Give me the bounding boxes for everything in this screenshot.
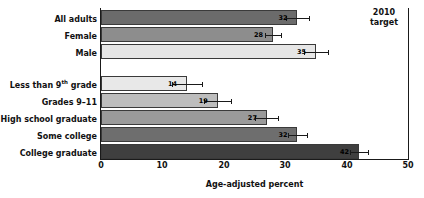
category-label-high-school-graduate: High school graduate	[0, 116, 97, 124]
category-label-less-than-9th-grade: Less than 9th grade	[10, 82, 97, 90]
category-label-text: Male	[75, 49, 97, 58]
bar-female	[101, 27, 273, 42]
plot-area: 3228351419273242	[101, 0, 408, 160]
x-tick-40: 40	[341, 162, 352, 170]
error-cap-female-low	[265, 33, 266, 38]
error-cap-male-high	[328, 50, 329, 55]
error-bar-high-school-graduate	[255, 118, 278, 119]
category-label-female: Female	[65, 33, 97, 41]
category-label-text: All adults	[54, 15, 97, 24]
category-label-text: Some college	[37, 132, 97, 141]
x-tick-30: 30	[279, 162, 290, 170]
y-axis-line	[100, 8, 101, 160]
error-bar-some-college	[288, 135, 308, 136]
error-cap-less-than-9th-grade-high	[202, 82, 203, 87]
bar-value-college-graduate: 42	[340, 149, 349, 156]
bar-value-less-than-9th-grade: 14	[168, 81, 177, 88]
bar-value-some-college: 32	[278, 132, 287, 139]
target-label: 2010 target	[364, 8, 404, 28]
y-axis-labels: All adults Female Male Less than 9th gra…	[0, 0, 97, 198]
bar-college-graduate	[101, 144, 359, 159]
x-tick-20: 20	[218, 162, 229, 170]
category-label-text: Less than 9	[10, 81, 62, 90]
category-label-text: Female	[65, 32, 97, 41]
category-label-all-adults: All adults	[54, 16, 97, 24]
error-cap-female-high	[281, 33, 282, 38]
category-label-male: Male	[75, 50, 97, 58]
error-cap-grades-9-11-high	[231, 99, 232, 104]
error-cap-high-school-graduate-high	[278, 116, 279, 121]
error-bar-male	[304, 52, 329, 53]
error-bar-female	[265, 35, 281, 36]
bar-value-grades-9-11: 19	[199, 98, 208, 105]
target-line	[408, 8, 409, 160]
x-axis-title: Age-adjusted percent	[101, 180, 408, 189]
bar-high-school-graduate	[101, 110, 267, 125]
category-label-text: Grades 9–11	[42, 98, 97, 107]
x-tick-10: 10	[156, 162, 167, 170]
bar-all-adults	[101, 10, 297, 25]
error-cap-college-graduate-high	[368, 150, 369, 155]
x-tick-50: 50	[402, 162, 413, 170]
bar-value-all-adults: 32	[278, 15, 287, 22]
bar-chart: All adults Female Male Less than 9th gra…	[0, 0, 424, 198]
error-cap-all-adults-high	[309, 16, 310, 21]
target-label-word: target	[364, 18, 404, 28]
bar-male	[101, 44, 316, 59]
bar-some-college	[101, 127, 297, 142]
category-label-text: High school graduate	[0, 115, 97, 124]
bar-value-male: 35	[297, 49, 306, 56]
target-label-year: 2010	[364, 8, 404, 18]
bar-value-female: 28	[254, 32, 263, 39]
error-cap-college-graduate-low	[350, 150, 351, 155]
category-label-some-college: Some college	[37, 133, 97, 141]
category-label-text: College graduate	[20, 149, 97, 158]
error-bar-grades-9-11	[204, 101, 231, 102]
category-label-grades-9-11: Grades 9–11	[42, 99, 97, 107]
category-label-text-suffix: grade	[68, 81, 97, 90]
x-tick-0: 0	[98, 162, 104, 170]
error-cap-some-college-high	[307, 133, 308, 138]
x-axis-line	[100, 159, 409, 160]
error-bar-college-graduate	[350, 152, 368, 153]
error-cap-some-college-low	[288, 133, 289, 138]
error-bar-all-adults	[286, 18, 308, 19]
category-label-college-graduate: College graduate	[20, 150, 97, 158]
bar-value-high-school-graduate: 27	[248, 115, 257, 122]
